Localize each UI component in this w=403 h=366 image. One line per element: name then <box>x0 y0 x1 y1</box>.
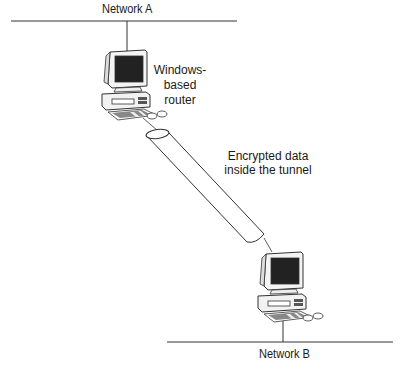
tunnel-label-line-1: Encrypted data <box>213 149 323 163</box>
computer-icon-router-b <box>258 252 323 322</box>
wire-tunnel-to-b <box>264 238 272 252</box>
wire-a-to-tunnel <box>143 118 158 131</box>
diagram-canvas <box>0 0 403 366</box>
router-a-label: Windows- based router <box>150 63 210 108</box>
router-a-label-line-2: based <box>150 78 210 93</box>
tunnel-label: Encrypted data inside the tunnel <box>213 149 323 177</box>
network-b-label: Network B <box>259 347 310 361</box>
network-a-label: Network A <box>102 2 152 16</box>
router-a-label-line-1: Windows- <box>150 63 210 78</box>
router-a-label-line-3: router <box>150 93 210 108</box>
tunnel-label-line-2: inside the tunnel <box>213 163 323 177</box>
encrypted-tunnel <box>145 128 264 242</box>
